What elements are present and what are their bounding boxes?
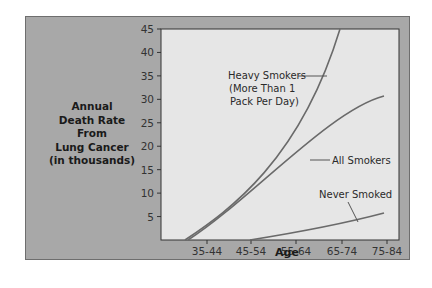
y-tick-label: 40 <box>141 46 154 58</box>
y-tick-label: 10 <box>141 187 154 199</box>
y-tick-label: 30 <box>141 93 154 105</box>
x-tick-label: 75-84 <box>372 245 403 257</box>
y-tick-label: 45 <box>141 23 154 35</box>
x-tick-label: 35-44 <box>192 245 223 257</box>
y-axis-ticks: 51015202530354045 <box>141 23 161 223</box>
all-smokers-label: All Smokers <box>332 155 391 166</box>
chart-svg: 51015202530354045 35-4445-5455-6465-7475… <box>0 0 432 288</box>
heavy-label: Pack Per Day) <box>230 96 299 107</box>
plot-area <box>161 29 399 240</box>
never-smoked-label: Never Smoked <box>319 189 392 200</box>
x-axis-title: Age <box>275 246 299 259</box>
y-tick-label: 5 <box>147 211 154 223</box>
y-tick-label: 20 <box>141 140 154 152</box>
y-tick-label: 25 <box>141 117 154 129</box>
x-tick-label: 65-74 <box>327 245 358 257</box>
x-tick-label: 45-54 <box>236 245 267 257</box>
y-tick-label: 15 <box>141 164 154 176</box>
heavy-label: (More Than 1 <box>229 83 295 94</box>
y-tick-label: 35 <box>141 70 154 82</box>
heavy-label: Heavy Smokers <box>228 70 306 81</box>
